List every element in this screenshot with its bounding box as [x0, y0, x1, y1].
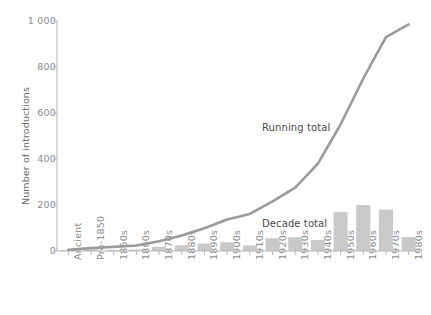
- bar: [243, 245, 257, 251]
- plot-area: [0, 0, 431, 315]
- bar: [379, 210, 393, 251]
- bar: [311, 240, 325, 251]
- bar: [334, 212, 348, 251]
- bar-series: [61, 205, 415, 251]
- bar: [175, 245, 189, 251]
- bar: [152, 247, 166, 251]
- annotation-decade-total: Decade total: [262, 218, 327, 229]
- bar: [266, 238, 280, 251]
- bar: [220, 242, 234, 251]
- bar: [402, 237, 416, 251]
- bar: [356, 205, 370, 251]
- chart-container: Number of introductions 02004006008001 0…: [0, 0, 431, 315]
- annotation-running-total: Running total: [262, 122, 330, 133]
- bar: [288, 237, 302, 251]
- bar: [197, 244, 211, 251]
